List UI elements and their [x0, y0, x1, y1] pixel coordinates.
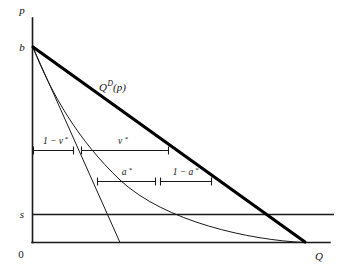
demand-curve-label-argument: (p): [113, 81, 126, 94]
bracket-v-star: v *: [81, 135, 169, 155]
bracket-1-minus-v-star: 1 − v *: [33, 135, 74, 155]
x-axis-label: Q: [315, 250, 323, 262]
bracket-label-1-minus-a-star-asterisk: *: [195, 166, 199, 174]
origin-label-zero: 0: [18, 248, 24, 260]
demand-curve-label-base: Q: [99, 81, 107, 93]
bracket-label-1-minus-a-star: 1 − a: [173, 167, 194, 177]
bracket-row-2: a * 1 − a *: [97, 166, 212, 186]
demand-curve-line: [33, 47, 305, 242]
bracket-label-v-star: v: [118, 136, 123, 146]
bracket-label-1-minus-v-star-asterisk: *: [65, 135, 69, 143]
bracket-row-1: 1 − v * v *: [33, 135, 169, 155]
demand-curve-figure: p b s 0 Q Q D (p) 1 − v *: [0, 0, 344, 273]
y-axis-label: p: [18, 4, 25, 16]
chart-canvas: p b s 0 Q Q D (p) 1 − v *: [0, 0, 344, 273]
y-intercept-label-b: b: [19, 41, 25, 53]
bracket-label-1-minus-v-star: 1 − v: [43, 136, 64, 146]
bracket-a-star: a *: [97, 166, 156, 186]
bracket-label-v-star-asterisk: *: [125, 135, 129, 143]
bracket-label-a-star: a: [122, 167, 127, 177]
bracket-label-a-star-asterisk: *: [129, 166, 133, 174]
demand-curve-label-group: Q D (p): [99, 79, 126, 94]
supply-price-label-s: s: [20, 208, 24, 220]
